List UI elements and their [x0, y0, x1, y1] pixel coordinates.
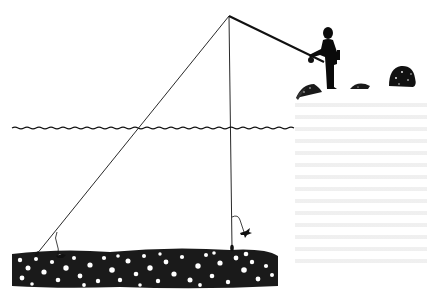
line-left [36, 16, 229, 255]
reel [308, 57, 314, 63]
line-right [229, 16, 232, 248]
rocky-bottom [12, 248, 278, 288]
fishing-rig-illustration [0, 0, 435, 299]
water-surface [12, 127, 294, 129]
river-bank [296, 66, 416, 100]
right-rig [230, 216, 252, 251]
